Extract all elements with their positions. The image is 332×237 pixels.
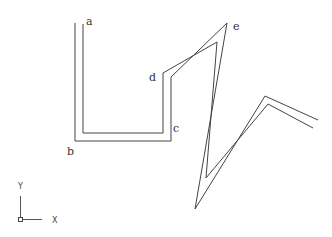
- ucs-origin-box-icon: [19, 218, 23, 222]
- vertex-label-d: d: [149, 71, 156, 84]
- vertex-label-e: e: [233, 20, 240, 33]
- vertex-label-c: c: [173, 122, 179, 135]
- drawing-canvas: a b c d e Y X: [0, 0, 332, 237]
- vertex-label-a: a: [86, 15, 93, 28]
- ucs-icon: Y X: [17, 182, 58, 225]
- vertex-label-b: b: [67, 145, 74, 158]
- x-axis-label: X: [52, 216, 58, 225]
- y-axis-label: Y: [17, 182, 23, 191]
- inner-wall-line: [83, 24, 313, 178]
- outer-wall-line: [75, 23, 318, 209]
